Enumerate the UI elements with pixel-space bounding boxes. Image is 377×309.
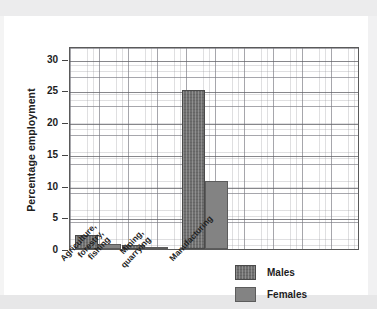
legend-item-females[interactable]: Females <box>235 283 307 305</box>
grid-line-major <box>70 124 358 125</box>
y-tick-label: 5 <box>36 212 58 223</box>
y-tick-label: 10 <box>36 181 58 192</box>
bar-females-1 <box>145 247 168 249</box>
y-tick-label: 0 <box>36 244 58 255</box>
y-tick-mark <box>62 187 68 188</box>
y-tick-mark <box>62 60 68 61</box>
legend-item-males[interactable]: Males <box>235 261 307 283</box>
y-tick-mark <box>62 155 68 156</box>
y-tick-label: 20 <box>36 117 58 128</box>
y-tick-mark <box>62 91 68 92</box>
page-top-margin <box>0 0 377 16</box>
y-tick-label: 25 <box>36 85 58 96</box>
page-bottom-margin <box>0 295 377 309</box>
chart-card: Percentage employment 051015202530 Agric… <box>4 16 368 295</box>
grid-line-major <box>70 156 358 157</box>
y-tick-mark <box>62 123 68 124</box>
grid-line-major <box>70 61 358 62</box>
grid-line-major <box>70 92 358 93</box>
chart-page: Percentage employment 051015202530 Agric… <box>0 0 377 309</box>
y-tick-label: 15 <box>36 149 58 160</box>
legend-swatch-males <box>235 265 256 280</box>
y-tick-label: 30 <box>36 54 58 65</box>
legend: Males Females <box>235 261 307 305</box>
legend-label-males: Males <box>267 267 295 278</box>
y-tick-mark <box>62 218 68 219</box>
page-right-margin <box>368 16 377 295</box>
legend-swatch-females <box>235 287 256 302</box>
legend-label-females: Females <box>267 289 307 300</box>
